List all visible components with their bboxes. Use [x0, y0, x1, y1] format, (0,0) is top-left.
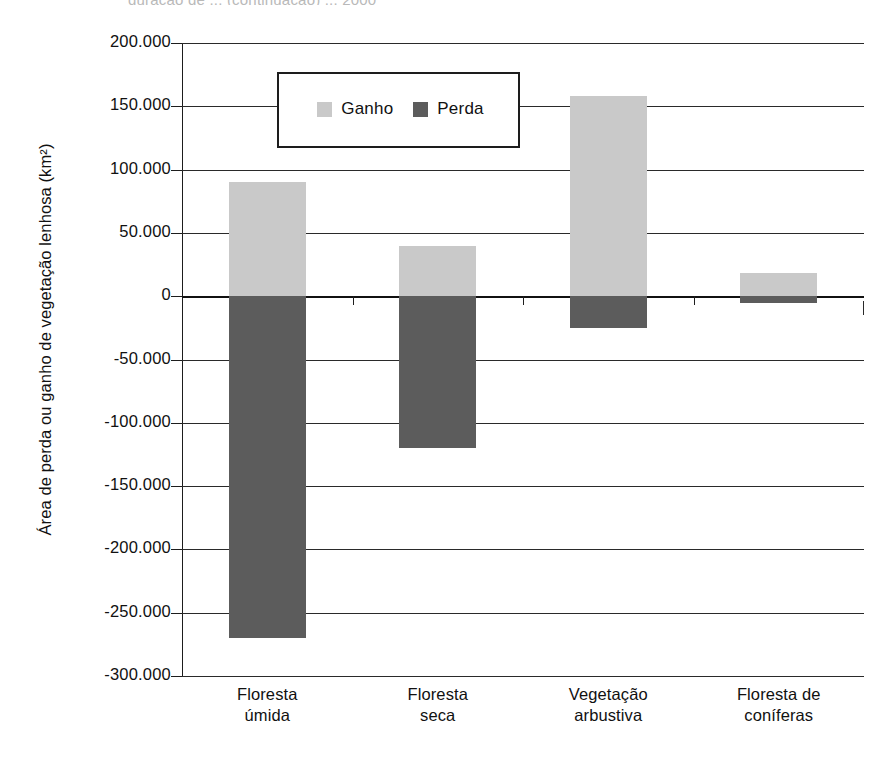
bar-loss — [399, 296, 476, 448]
gridline — [182, 170, 864, 171]
y-axis-tick — [171, 423, 182, 424]
y-axis-tick — [171, 486, 182, 487]
gridline — [182, 43, 864, 44]
x-axis-category-label-line: Floresta de — [694, 684, 864, 705]
y-axis-tick-label: -300.000 — [104, 665, 171, 684]
bar-gain — [229, 182, 306, 296]
x-axis-category-label-line: seca — [353, 705, 523, 726]
x-axis-category-label-line: Floresta — [182, 684, 352, 705]
legend-swatch-perda — [413, 102, 428, 117]
y-axis-tick — [171, 170, 182, 171]
y-axis-tick-label: 100.000 — [110, 159, 171, 178]
bar-gain — [740, 273, 817, 296]
y-axis-tick — [171, 233, 182, 234]
y-axis-tick — [171, 613, 182, 614]
bar-gain — [570, 96, 647, 296]
x-axis-category-label-line: Floresta — [353, 684, 523, 705]
y-axis-tick-label: 0 — [162, 285, 171, 304]
legend-label-ganho: Ganho — [341, 99, 393, 119]
y-axis-tick-label: 150.000 — [110, 95, 171, 114]
x-axis-category-label-line: coníferas — [694, 705, 864, 726]
bar-loss — [570, 296, 647, 328]
x-axis-tick — [353, 296, 354, 305]
x-axis-category-label-line: Vegetação — [523, 684, 693, 705]
x-axis-category-label-line: úmida — [182, 705, 352, 726]
y-axis-tick — [171, 360, 182, 361]
x-axis-category-label: Florestaúmida — [182, 684, 352, 726]
legend-item-perda: Perda — [413, 99, 483, 119]
legend: Ganho Perda — [277, 72, 520, 148]
y-axis-tick-label: -200.000 — [104, 538, 171, 557]
gridline — [182, 676, 864, 677]
x-axis-tick — [694, 296, 695, 305]
x-axis-tick — [523, 296, 524, 305]
bar-loss — [740, 296, 817, 302]
y-axis-tick-label: 200.000 — [110, 32, 171, 51]
legend-item-ganho: Ganho — [317, 99, 393, 119]
y-axis-tick-label: -150.000 — [104, 475, 171, 494]
y-axis-tick — [171, 549, 182, 550]
x-axis-category-labels: FlorestaúmidaFlorestasecaVegetaçãoarbust… — [182, 684, 864, 754]
x-axis-category-label: Florestaseca — [353, 684, 523, 726]
x-axis-category-label: Vegetaçãoarbustiva — [523, 684, 693, 726]
y-axis-tick — [171, 676, 182, 677]
chart-figure: guração de ... (continuação) ... 2000 Ár… — [0, 0, 890, 767]
axis-right-cap — [863, 301, 864, 315]
legend-label-perda: Perda — [437, 99, 483, 119]
bar-gain — [399, 246, 476, 297]
y-axis-tick-labels: 200.000150.000100.00050.0000-50.000-100.… — [0, 43, 171, 676]
x-axis-category-label-line: arbustiva — [523, 705, 693, 726]
legend-row: Ganho Perda — [279, 99, 522, 119]
y-axis-tick-label: -250.000 — [104, 602, 171, 621]
legend-swatch-ganho — [317, 102, 332, 117]
y-axis-tick — [171, 106, 182, 107]
bar-loss — [229, 296, 306, 638]
y-axis-tick-label: -50.000 — [114, 349, 171, 368]
y-axis-tick — [171, 296, 182, 297]
caption-fragment: guração de ... (continuação) ... 2000 — [128, 0, 648, 5]
y-axis-tick-label: -100.000 — [104, 412, 171, 431]
y-axis-tick-label: 50.000 — [119, 222, 171, 241]
y-axis-tick — [171, 43, 182, 44]
x-axis-category-label: Floresta deconíferas — [694, 684, 864, 726]
